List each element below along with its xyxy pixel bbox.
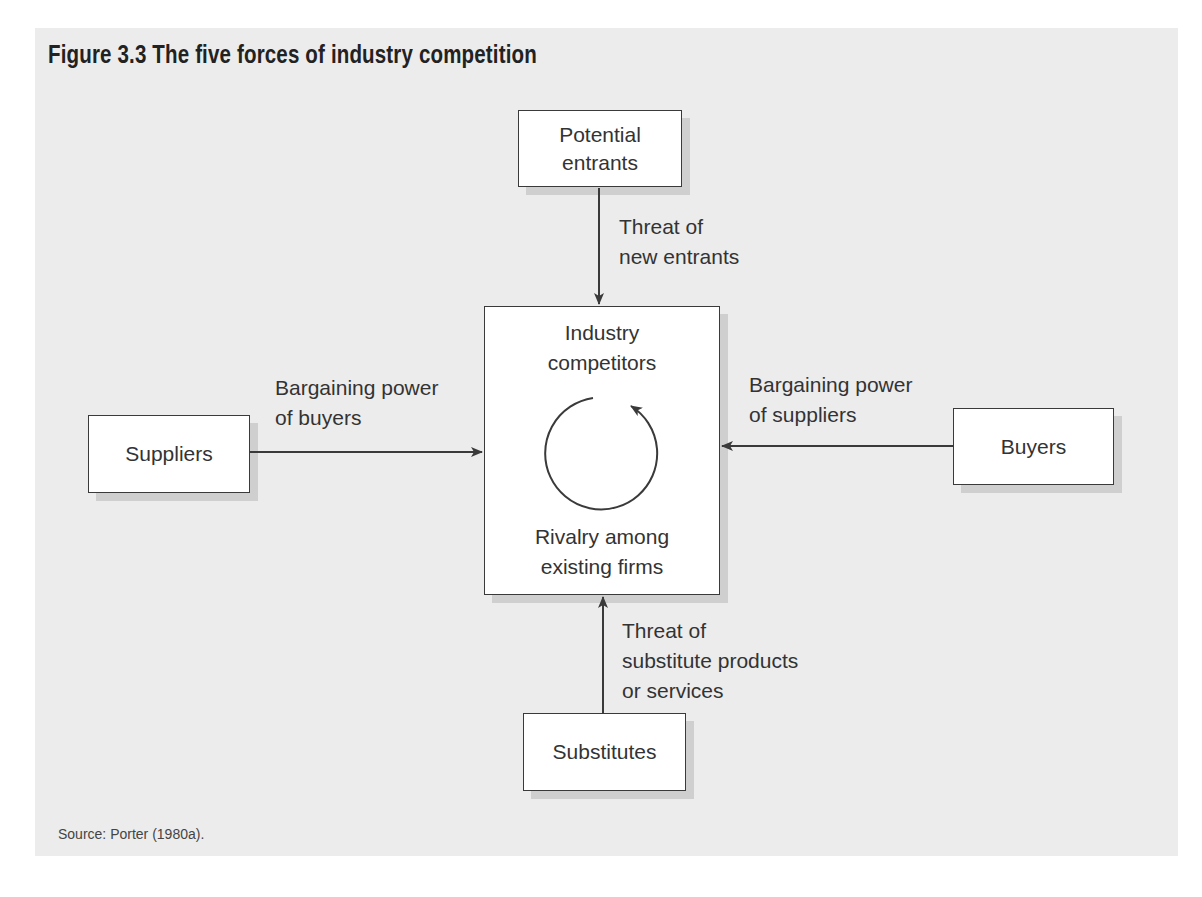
power-left-label: Bargaining power of buyers	[275, 373, 438, 433]
new-entrants-line2: new entrants	[619, 242, 739, 272]
substitutes-threat-line3: or services	[622, 676, 798, 706]
power-right-label: Bargaining power of suppliers	[749, 370, 912, 430]
power-left-line2: of buyers	[275, 403, 438, 433]
connector-layer	[0, 0, 1202, 897]
new-entrants-label: Threat of new entrants	[619, 212, 739, 272]
new-entrants-line1: Threat of	[619, 212, 739, 242]
substitutes-threat-line1: Threat of	[622, 616, 798, 646]
power-left-line1: Bargaining power	[275, 373, 438, 403]
rivalry-cycle-icon	[545, 398, 657, 509]
power-right-line2: of suppliers	[749, 400, 912, 430]
figure-source: Source: Porter (1980a).	[58, 826, 204, 842]
substitutes-threat-line2: substitute products	[622, 646, 798, 676]
substitutes-threat-label: Threat of substitute products or service…	[622, 616, 798, 706]
power-right-line1: Bargaining power	[749, 370, 912, 400]
